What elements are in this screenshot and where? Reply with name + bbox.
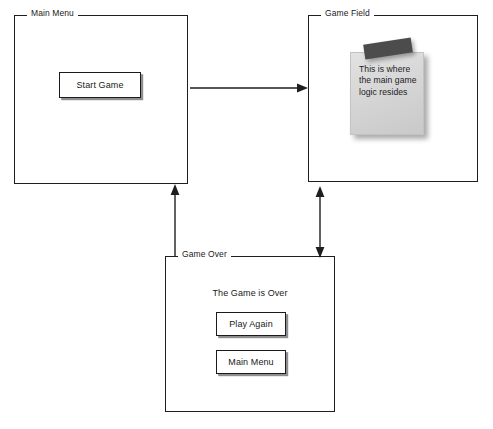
- play-again-button[interactable]: Play Again: [216, 312, 286, 336]
- panel-main-menu: Main Menu: [14, 15, 188, 184]
- game-over-message: The Game is Over: [165, 288, 335, 299]
- main-menu-button[interactable]: Main Menu: [216, 350, 286, 374]
- diagram-canvas: Main Menu Start Game Game Field This is …: [0, 0, 493, 429]
- sticky-note-text: This is where the main game logic reside…: [359, 64, 421, 98]
- panel-game-field-label: Game Field: [321, 8, 374, 18]
- start-game-button[interactable]: Start Game: [59, 72, 141, 98]
- arrow-game-field-to-game-over-icon: [308, 186, 332, 258]
- arrow-main-menu-to-game-field-icon: [190, 78, 308, 98]
- sticky-note: This is where the main game logic reside…: [350, 52, 424, 135]
- panel-main-menu-label: Main Menu: [27, 8, 78, 18]
- arrow-game-over-to-main-menu-icon: [163, 184, 187, 256]
